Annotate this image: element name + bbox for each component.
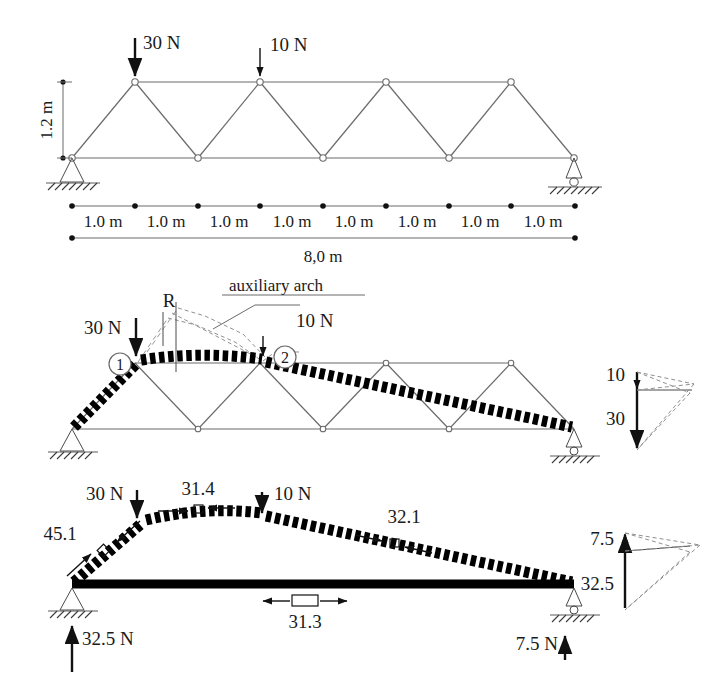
- auxiliary-arch-label: auxiliary arch: [229, 276, 323, 295]
- panel-middle-auxiliary-arch: auxiliary arch R 1 2 30 N 10 N: [48, 276, 694, 463]
- auxiliary-arch-leader: [213, 295, 365, 329]
- bay-dim-1: 1.0 m: [84, 212, 123, 231]
- force-polygon-bottom-label-32-5: 32.5: [581, 573, 614, 594]
- node-marker-2: 2: [274, 346, 296, 368]
- force-label-31-3: 31.3: [288, 611, 321, 632]
- pin-support-left-bottom: [48, 588, 98, 618]
- bay-dim-6: 1.0 m: [398, 212, 437, 231]
- load-label-30N-top: 30 N: [143, 32, 181, 53]
- force-label-31-4: 31.4: [181, 478, 215, 499]
- force-polygon-mid-label-10: 10: [606, 364, 625, 385]
- force-polygon-middle: [637, 372, 694, 450]
- pin-support-left: [46, 158, 100, 190]
- web-members: [72, 82, 574, 158]
- funicular-top-arch: [141, 355, 262, 360]
- roller-support-right-mid: [550, 429, 600, 463]
- roller-support-right: [548, 158, 602, 194]
- bay-dim-7: 1.0 m: [461, 212, 500, 231]
- truss-joints: [69, 79, 577, 161]
- engineering-diagram: 30 N 10 N 1.2 m 1.0 m 1.: [0, 0, 719, 684]
- node-marker-1-label: 1: [116, 356, 124, 373]
- force-label-32-1: 32.1: [387, 506, 420, 527]
- height-dimension: [57, 79, 72, 160]
- force-annotation-31-3: [263, 595, 347, 606]
- panel-bottom-results: 30 N 10 N 45.1 31.4 32.1: [43, 478, 700, 672]
- load-label-10N-bottom: 10 N: [274, 483, 312, 504]
- reaction-label-right: 7.5 N: [516, 633, 559, 654]
- bay-dim-8: 1.0 m: [524, 212, 563, 231]
- load-label-30N-bottom: 30 N: [86, 483, 124, 504]
- total-span-line: [69, 235, 578, 241]
- reaction-label-left: 32.5 N: [82, 628, 134, 649]
- figure-canvas: 30 N 10 N 1.2 m 1.0 m 1.: [0, 0, 719, 684]
- resultant-label-R: R: [163, 290, 176, 311]
- bay-dim-4: 1.0 m: [273, 212, 312, 231]
- bay-dim-2: 1.0 m: [147, 212, 186, 231]
- bay-dimension-line: [69, 203, 578, 209]
- force-polygon-bottom-label-7-5: 7.5: [590, 528, 614, 549]
- pin-support-left-mid: [48, 429, 98, 459]
- force-polygon-bottom: [625, 533, 700, 610]
- panel-top-truss: 30 N 10 N 1.2 m 1.0 m 1.: [37, 32, 602, 266]
- bay-dim-5: 1.0 m: [335, 212, 374, 231]
- node-marker-2-label: 2: [281, 349, 289, 366]
- load-label-10N-mid: 10 N: [296, 310, 334, 331]
- result-top-chord: [146, 511, 262, 520]
- load-label-10N-top: 10 N: [270, 34, 308, 55]
- force-polygon-mid-label-30: 30: [606, 408, 625, 429]
- height-dimension-label: 1.2 m: [37, 101, 56, 140]
- bay-dim-3: 1.0 m: [210, 212, 249, 231]
- total-span-label: 8,0 m: [304, 247, 343, 266]
- node-marker-1: 1: [109, 353, 131, 375]
- force-label-45-1: 45.1: [43, 523, 76, 544]
- load-label-30N-mid: 30 N: [84, 317, 122, 338]
